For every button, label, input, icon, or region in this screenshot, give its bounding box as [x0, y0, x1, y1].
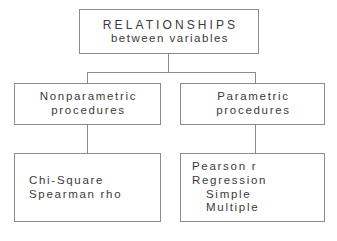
node-nonparametric-tests-line-1: Chi-Square — [29, 174, 104, 188]
node-nonparametric-tests-line-2: Spearman rho — [29, 188, 122, 202]
node-parametric-tests-line-3: Simple — [192, 188, 251, 202]
node-parametric-line-2: procedures — [214, 104, 291, 118]
node-nonparametric-tests: Chi-Square Spearman rho — [14, 153, 161, 222]
connector-parametric-to-tests — [255, 125, 256, 154]
node-parametric-tests-line-1: Pearson r — [192, 160, 257, 174]
connector-root-stem — [168, 54, 169, 73]
connector-nonparametric-to-tests — [87, 125, 88, 154]
diagram-canvas: RELATIONSHIPS between variables Nonparam… — [0, 0, 337, 241]
connector-split-bar — [87, 72, 256, 73]
node-relationships-line-1: RELATIONSHIPS — [100, 18, 238, 32]
node-nonparametric-line-2: procedures — [49, 104, 126, 118]
node-relationships: RELATIONSHIPS between variables — [79, 9, 259, 54]
node-relationships-line-2: between variables — [109, 32, 229, 46]
node-nonparametric-line-1: Nonparametric — [38, 90, 138, 104]
node-nonparametric-procedures: Nonparametric procedures — [14, 83, 161, 125]
node-parametric-tests: Pearson r Regression Simple Multiple — [180, 153, 325, 222]
node-parametric-tests-line-2: Regression — [192, 174, 267, 188]
node-parametric-procedures: Parametric procedures — [180, 83, 325, 125]
node-parametric-tests-line-4: Multiple — [192, 201, 259, 215]
node-parametric-line-1: Parametric — [215, 90, 290, 104]
